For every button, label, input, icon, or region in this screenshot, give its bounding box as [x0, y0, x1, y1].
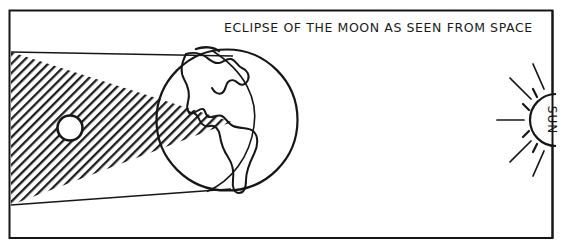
moon [58, 116, 83, 141]
shadow-cone [0, 0, 564, 247]
umbra-hatching [0, 0, 564, 247]
figure-page: ECLIPSE OF THE MOON AS SEEN FROM SPACE [0, 0, 564, 247]
eclipse-diagram: ECLIPSE OF THE MOON AS SEEN FROM SPACE [0, 0, 564, 247]
moon-disc [58, 116, 83, 141]
